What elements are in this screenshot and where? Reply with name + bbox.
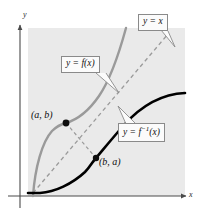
callout-inverse-suffix: (x) bbox=[149, 127, 160, 137]
point-label-b-a: (b, a) bbox=[99, 157, 121, 167]
callout-function-label: y = f(x) bbox=[66, 58, 95, 68]
point-marker-a-b bbox=[63, 120, 70, 127]
x-axis-label: x bbox=[189, 191, 193, 199]
callout-identity-line: y = x bbox=[138, 14, 168, 31]
callout-inverse-prefix: y = f bbox=[123, 127, 141, 137]
callout-function-curve: y = f(x) bbox=[61, 56, 100, 73]
figure-canvas bbox=[0, 0, 199, 216]
inverse-function-figure: y x y = x y = f(x) y = f−1(x) (a, b) (b,… bbox=[0, 0, 199, 216]
callout-identity-label: y = x bbox=[143, 16, 163, 26]
point-label-a-b: (a, b) bbox=[31, 110, 53, 120]
y-axis-label: y bbox=[23, 11, 27, 19]
callout-inverse-curve: y = f−1(x) bbox=[118, 123, 165, 142]
